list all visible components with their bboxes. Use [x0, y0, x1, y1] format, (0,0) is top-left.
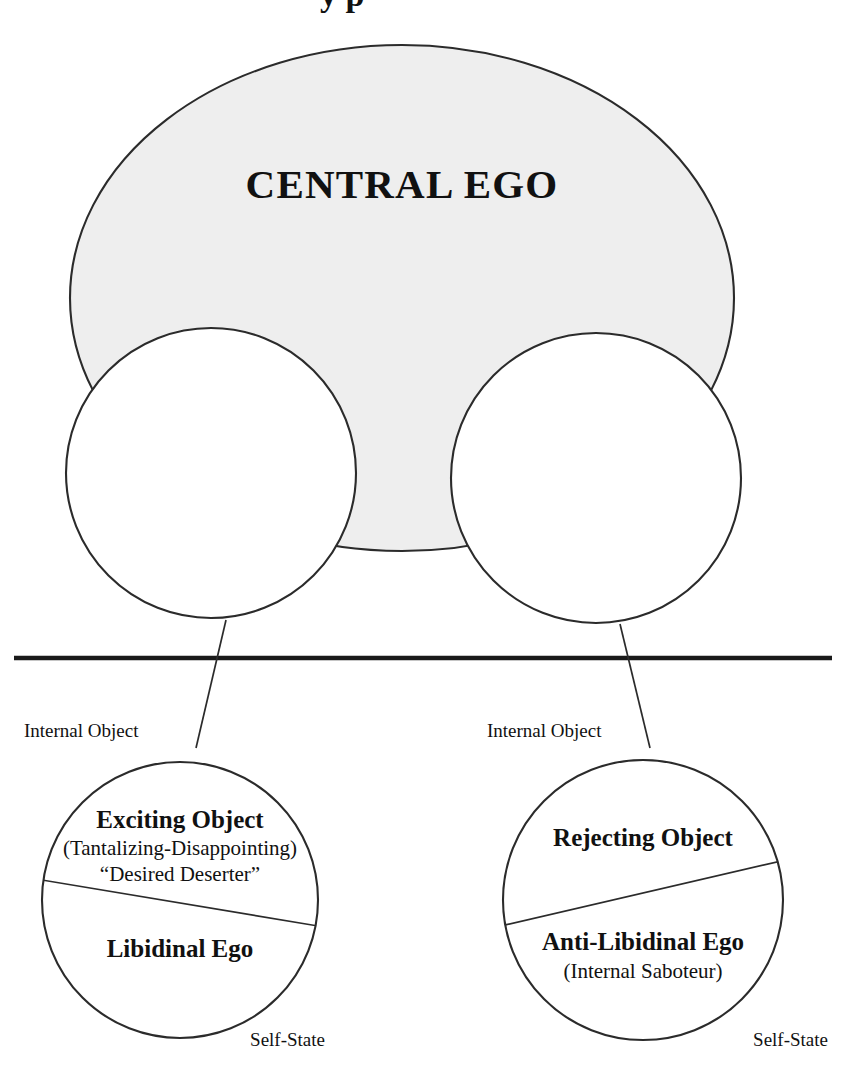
right-internal-object-label: Internal Object [487, 720, 602, 741]
anti-libidinal-ego-title: Anti-Libidinal Ego [542, 928, 744, 955]
clipped-title-remnant: y p [320, 0, 364, 13]
fairbairn-endopsychic-structure-diagram: y p CENTRAL EGO Internal Object Exciting… [0, 0, 846, 1091]
upper-right-split-circle [451, 333, 741, 623]
clipped-title-text: y p [320, 0, 364, 13]
right-connector-line [620, 624, 650, 748]
right-internal-object-structure: Internal Object Rejecting Object Anti-Li… [487, 720, 828, 1050]
left-self-state-label: Self-State [250, 1029, 325, 1050]
exciting-object-subtitle-2: “Desired Deserter” [100, 862, 260, 886]
exciting-object-title: Exciting Object [96, 806, 264, 833]
libidinal-ego-title: Libidinal Ego [107, 935, 254, 962]
left-internal-object-label: Internal Object [24, 720, 139, 741]
exciting-object-subtitle-1: (Tantalizing-Disappointing) [63, 836, 297, 860]
right-self-state-label: Self-State [753, 1029, 828, 1050]
left-self-state-circle [42, 762, 318, 1038]
upper-left-split-circle [66, 328, 356, 618]
rejecting-object-title: Rejecting Object [553, 824, 733, 851]
central-ego-label: CENTRAL EGO [246, 161, 559, 207]
diagram-canvas: y p CENTRAL EGO Internal Object Exciting… [0, 0, 846, 1091]
anti-libidinal-ego-subtitle: (Internal Saboteur) [563, 959, 722, 983]
left-internal-object-structure: Internal Object Exciting Object (Tantali… [24, 720, 330, 1050]
right-self-state-circle [503, 760, 783, 1040]
left-connector-line [196, 620, 226, 748]
